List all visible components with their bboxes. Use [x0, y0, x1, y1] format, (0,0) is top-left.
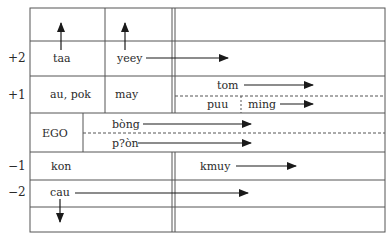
- generation-label-plus1: +1: [8, 88, 26, 102]
- kinship-diagram: +2 +1 −1 −2 taa yeey au, pok may tom puu…: [0, 0, 392, 241]
- term-ego: EGO: [42, 127, 68, 140]
- double-divider-bottom: [172, 152, 175, 232]
- term-kmuy: kmuy: [200, 160, 231, 173]
- term-tom: tom: [217, 79, 239, 92]
- term-cau: cau: [50, 186, 70, 199]
- term-pon: p?òn: [112, 137, 139, 150]
- term-may: may: [115, 88, 139, 101]
- term-kon: kon: [51, 160, 71, 173]
- term-bong: bòng: [112, 118, 140, 131]
- term-yeey: yeey: [116, 52, 143, 65]
- term-puu: puu: [207, 98, 228, 111]
- generation-label-plus2: +2: [8, 51, 26, 65]
- generation-label-minus1: −1: [8, 159, 26, 173]
- term-taa: taa: [53, 52, 71, 65]
- term-ming: ming: [248, 98, 276, 111]
- generation-label-minus2: −2: [8, 185, 26, 199]
- term-au-pok: au, pok: [50, 88, 91, 101]
- double-divider-top: [172, 8, 175, 113]
